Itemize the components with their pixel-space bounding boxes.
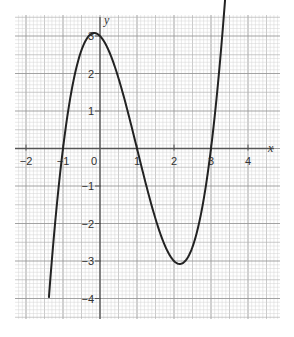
x-tick-label: 2 (171, 155, 177, 167)
y-tick-label: 2 (88, 68, 94, 80)
x-tick-label: 4 (245, 155, 251, 167)
y-tick-label: 1 (88, 105, 94, 117)
y-axis-label: y (103, 13, 110, 27)
x-tick-label: 0 (91, 155, 97, 167)
y-tick-label: −1 (81, 180, 94, 192)
y-tick-label: −2 (81, 218, 94, 230)
x-tick-label: −2 (20, 155, 33, 167)
x-axis-label: x (267, 141, 274, 155)
y-tick-label: −4 (81, 293, 94, 305)
graph-paper-grid (15, 15, 280, 319)
cubic-function-graph: −2−101234−4−3−2−1123 x y (0, 0, 294, 337)
y-tick-label: −3 (81, 255, 94, 267)
